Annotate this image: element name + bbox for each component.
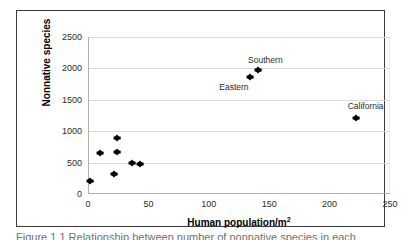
figure-caption: Figure 1.1 Relationship between number o… xyxy=(16,231,396,240)
x-axis-tick-label: 150 xyxy=(262,199,277,209)
gridline xyxy=(89,37,390,38)
y-axis-tick-label: 0 xyxy=(37,189,82,199)
x-axis-tick-label: 50 xyxy=(143,199,153,209)
data-point-marker xyxy=(87,178,94,185)
data-point-label: California xyxy=(348,101,384,111)
y-axis-tick-label: 2500 xyxy=(37,32,82,42)
plot-right-edge xyxy=(389,37,390,193)
x-axis-tick-label: 200 xyxy=(322,199,337,209)
data-point-marker xyxy=(96,150,103,157)
figure-frame: Nonnative species 05001000150020002500 0… xyxy=(16,10,385,227)
x-axis-title-superscript: 2 xyxy=(287,216,291,223)
data-point-marker xyxy=(255,66,262,73)
data-point-marker xyxy=(113,148,120,155)
y-axis-tick-label: 1000 xyxy=(37,126,82,136)
y-axis-tick-label: 500 xyxy=(37,158,82,168)
data-point-label: Eastern xyxy=(219,82,248,92)
y-axis-tick-label: 2000 xyxy=(37,63,82,73)
x-axis-title: Human population/m2 xyxy=(88,216,390,228)
gridline xyxy=(89,131,390,132)
x-axis-title-text: Human population/m xyxy=(187,217,286,228)
data-point-marker xyxy=(352,114,359,121)
x-axis-tick-label: 250 xyxy=(382,199,397,209)
x-axis-tick-label: 0 xyxy=(85,199,90,209)
gridline xyxy=(89,100,390,101)
plot-area: SouthernEasternCalifornia xyxy=(88,37,390,194)
x-axis-tick-label: 100 xyxy=(201,199,216,209)
figure-root: Nonnative species 05001000150020002500 0… xyxy=(0,0,404,240)
data-point-marker xyxy=(246,73,253,80)
y-axis-tick-label: 1500 xyxy=(37,95,82,105)
data-point-marker xyxy=(136,160,143,167)
data-point-marker xyxy=(113,135,120,142)
data-point-marker xyxy=(129,160,136,167)
gridline xyxy=(89,68,390,69)
data-point-marker xyxy=(111,170,118,177)
data-point-label: Southern xyxy=(248,55,283,65)
